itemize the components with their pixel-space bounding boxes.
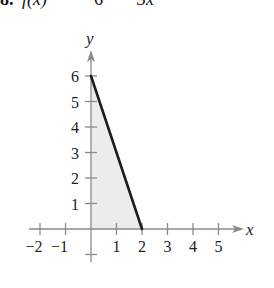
y-tick-label: 2 [71, 170, 79, 187]
x-tick-label: 2 [138, 238, 146, 255]
x-tick-label: 3 [164, 238, 172, 255]
function-plot: −2−112345 123456 x y [0, 0, 274, 288]
y-tick-label: 3 [71, 145, 79, 162]
x-axis-label: x [245, 220, 254, 239]
x-tick-label: −1 [51, 238, 68, 255]
y-tick-label: 5 [71, 94, 79, 111]
x-tick-label: 5 [215, 238, 223, 255]
x-tick-label: 1 [113, 238, 121, 255]
y-axis-label: y [84, 29, 94, 48]
x-tick-label: −2 [25, 238, 42, 255]
x-tick-label: 4 [189, 238, 197, 255]
y-tick-label: 6 [71, 68, 79, 85]
y-tick-label: 4 [71, 119, 79, 136]
y-tick-label: 1 [71, 196, 79, 213]
